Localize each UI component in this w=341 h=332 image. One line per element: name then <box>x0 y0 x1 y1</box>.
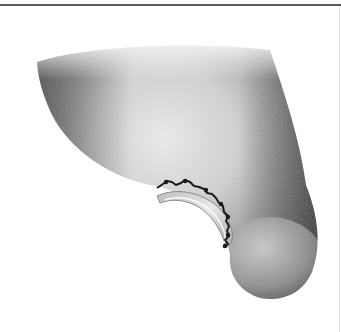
stump-illustration <box>0 0 341 332</box>
stump-body <box>0 0 341 332</box>
illustration-frame: Illustration of a limb stump with a sutu… <box>0 0 341 332</box>
